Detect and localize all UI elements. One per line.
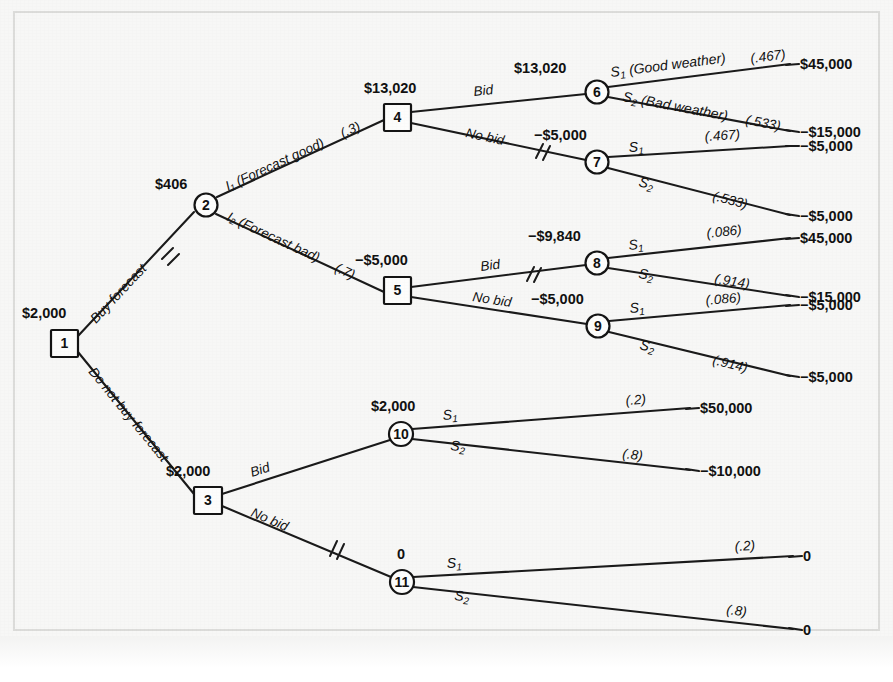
stub-9-s1 xyxy=(786,305,799,306)
branch-label-do-not-buy-forecast: Do not buy forecast xyxy=(86,364,173,465)
stub-7-s2 xyxy=(786,214,799,216)
prob-label-10-s2: (.8) xyxy=(622,446,644,463)
stub-6-s1 xyxy=(786,64,799,65)
payoff-8-s1: $45,000 xyxy=(800,230,852,246)
node-9-label: 9 xyxy=(594,318,602,334)
stub-11-s1 xyxy=(789,556,802,557)
ev-node-1: $2,000 xyxy=(22,305,66,321)
state-label-11-s2: S2 xyxy=(453,587,470,607)
prob-label-9-s2: (.914) xyxy=(711,352,749,375)
branch-label-bid-node3: Bid xyxy=(248,459,272,479)
ev-node-10: $2,000 xyxy=(371,398,415,414)
stub-10-s1 xyxy=(686,408,699,409)
prob-label-6-s2: (.533) xyxy=(744,112,781,133)
prune-mark-1-2-a xyxy=(162,248,173,259)
node-5-label: 5 xyxy=(394,282,402,298)
outcome-7-s2 xyxy=(608,168,790,215)
state-label-7-s2: S2 xyxy=(637,173,656,194)
state-label-11-s1: S1 xyxy=(446,554,462,573)
ev-node-7: −$5,000 xyxy=(534,127,587,143)
state-label-9-s1: S1 xyxy=(629,299,645,318)
payoff-7-s2: −$5,000 xyxy=(800,208,853,224)
stub-9-s2 xyxy=(786,375,799,377)
state-label-10-s1: S1 xyxy=(442,406,458,425)
node-8-label: 8 xyxy=(593,255,601,271)
prob-label-6-s1: (.467) xyxy=(749,47,786,66)
state-label-9-s2: S2 xyxy=(638,336,657,357)
payoff-9-s2: −$5,000 xyxy=(800,369,853,385)
ev-node-11: 0 xyxy=(397,546,405,562)
branch-3-to-10 xyxy=(222,440,390,494)
state-label-6-s2: S2 (Bad weather) xyxy=(621,88,729,125)
ev-node-8: −$9,840 xyxy=(528,228,581,244)
decision-tree-canvas: 1 2 3 4 5 6 7 8 9 10 11 $2,000 $406 xyxy=(0,0,893,682)
ev-node-4: $13,020 xyxy=(364,80,416,96)
prob-label-8-s1: (.086) xyxy=(706,222,743,241)
prob-label-8-s2: (.914) xyxy=(714,271,751,291)
stub-6-s2 xyxy=(786,130,799,132)
payoff-6-s1: $45,000 xyxy=(800,56,852,72)
state-label-10-s2: S2 xyxy=(449,437,466,457)
page-bottom-fade xyxy=(0,636,893,682)
node-1-label: 1 xyxy=(61,335,69,351)
prob-label-9-s1: (.086) xyxy=(705,290,741,308)
node-11-label: 11 xyxy=(395,574,410,590)
payoff-7-s1: −$5,000 xyxy=(800,138,853,154)
prune-mark-1-2-b xyxy=(168,254,179,265)
prob-label-11-s2: (.8) xyxy=(726,602,748,619)
state-label-8-s1: S1 xyxy=(628,235,645,255)
state-label-8-s2: S2 xyxy=(637,265,655,285)
node-10-label: 10 xyxy=(393,426,409,442)
node-2-label: 2 xyxy=(202,197,210,213)
prob-label-11-s1: (.2) xyxy=(734,538,755,554)
branch-label-bid-node5: Bid xyxy=(479,257,501,274)
payoff-9-s1: −$5,000 xyxy=(800,297,853,313)
prune-mark-5-8-a xyxy=(527,267,534,281)
state-label-6-s1: S1 (Good weather) xyxy=(609,50,726,82)
node-6-label: 6 xyxy=(593,84,601,100)
branch-3-to-11 xyxy=(222,506,391,577)
state-label-7-s1: S1 xyxy=(628,138,644,157)
ev-node-3: $2,000 xyxy=(166,463,210,479)
payoff-10-s1: $50,000 xyxy=(700,400,752,416)
node-3-label: 3 xyxy=(204,492,212,508)
branch-label-buy-forecast: Buy forecast xyxy=(87,260,150,326)
outcome-11-s1 xyxy=(413,556,793,577)
branch-label-no-bid-node3: No bid xyxy=(249,505,291,534)
prob-label-forecast-good: (.3) xyxy=(338,119,363,141)
outcome-9-s2 xyxy=(609,332,790,376)
outcome-8-s2 xyxy=(608,268,790,296)
prob-label-10-s1: (.2) xyxy=(625,392,646,408)
payoff-11-s1: 0 xyxy=(803,548,811,564)
prob-label-7-s1: (.467) xyxy=(704,127,740,144)
decision-tree-svg: 1 2 3 4 5 6 7 8 9 10 11 $2,000 $406 xyxy=(0,0,893,682)
node-4-label: 4 xyxy=(394,109,402,125)
ev-node-5: −$5,000 xyxy=(355,252,408,268)
branch-label-no-bid-node4: No bid xyxy=(464,125,506,148)
node-7-label: 7 xyxy=(593,154,601,170)
branch-label-bid-node4: Bid xyxy=(473,82,494,99)
ev-node-2: $406 xyxy=(155,176,187,192)
branch-4-to-6 xyxy=(411,94,586,112)
branch-label-forecast-good: I₁ (Forecast good) xyxy=(223,135,326,194)
ev-node-9: −$5,000 xyxy=(531,291,584,307)
payoff-10-s2: −$10,000 xyxy=(700,463,761,479)
ev-node-6: $13,020 xyxy=(514,60,566,76)
prob-label-7-s2: (.533) xyxy=(711,188,749,211)
branch-label-forecast-bad: I₂ (Forecast bad) xyxy=(225,209,322,265)
stub-8-s1 xyxy=(786,238,799,239)
